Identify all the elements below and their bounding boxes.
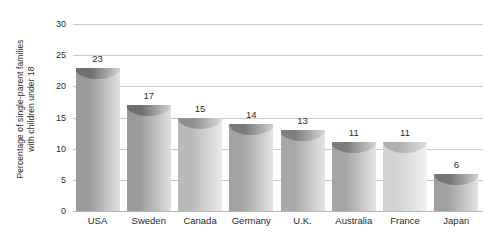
y-axis-tick-label: 5 bbox=[46, 175, 66, 185]
bar-body bbox=[229, 124, 273, 211]
x-axis-category-label: Sweden bbox=[121, 215, 177, 226]
bar-group[interactable]: 17Sweden bbox=[127, 24, 171, 211]
bar-body bbox=[178, 118, 222, 212]
bar-value-label: 6 bbox=[434, 159, 478, 170]
bar[interactable] bbox=[127, 105, 171, 211]
plot-area: 23USA17Sweden15Canada14Germany13U.K.11Au… bbox=[73, 24, 483, 211]
y-axis-tick-label: 15 bbox=[46, 113, 66, 123]
gridline bbox=[73, 211, 483, 212]
bar-body bbox=[281, 130, 325, 211]
bar-value-label: 23 bbox=[76, 53, 120, 64]
bar-value-label: 11 bbox=[332, 127, 376, 138]
bar-chart: Percentage of single-parent families wit… bbox=[0, 0, 489, 242]
bar-series: 23USA17Sweden15Canada14Germany13U.K.11Au… bbox=[73, 24, 483, 211]
bar-group[interactable]: 15Canada bbox=[178, 24, 222, 211]
bar-value-label: 17 bbox=[127, 90, 171, 101]
bar-group[interactable]: 13U.K. bbox=[281, 24, 325, 211]
bar-value-label: 14 bbox=[229, 109, 273, 120]
bar-group[interactable]: 14Germany bbox=[229, 24, 273, 211]
y-axis-tick-label: 0 bbox=[46, 206, 66, 216]
bar[interactable] bbox=[76, 68, 120, 211]
x-axis-category-label: Australia bbox=[326, 215, 382, 226]
bar-value-label: 15 bbox=[178, 103, 222, 114]
bar[interactable] bbox=[434, 174, 478, 211]
bar[interactable] bbox=[383, 142, 427, 211]
y-axis-tick-label: 30 bbox=[46, 19, 66, 29]
bar-body bbox=[76, 68, 120, 211]
bar-group[interactable]: 6Japan bbox=[434, 24, 478, 211]
x-axis-category-label: Germany bbox=[223, 215, 279, 226]
bar[interactable] bbox=[229, 124, 273, 211]
bar[interactable] bbox=[332, 142, 376, 211]
bar-value-label: 11 bbox=[383, 127, 427, 138]
bar[interactable] bbox=[178, 118, 222, 212]
bar-value-label: 13 bbox=[281, 115, 325, 126]
x-axis-category-label: France bbox=[377, 215, 433, 226]
x-axis-category-label: Japan bbox=[428, 215, 484, 226]
bar[interactable] bbox=[281, 130, 325, 211]
x-axis-category-label: U.K. bbox=[275, 215, 331, 226]
bar-group[interactable]: 23USA bbox=[76, 24, 120, 211]
bar-group[interactable]: 11Australia bbox=[332, 24, 376, 211]
y-axis-tick-label: 20 bbox=[46, 81, 66, 91]
bar-group[interactable]: 11France bbox=[383, 24, 427, 211]
bar-body bbox=[127, 105, 171, 211]
y-axis-tick-label: 10 bbox=[46, 144, 66, 154]
x-axis-category-label: Canada bbox=[172, 215, 228, 226]
x-axis-category-label: USA bbox=[70, 215, 126, 226]
y-axis-tick-label: 25 bbox=[46, 50, 66, 60]
